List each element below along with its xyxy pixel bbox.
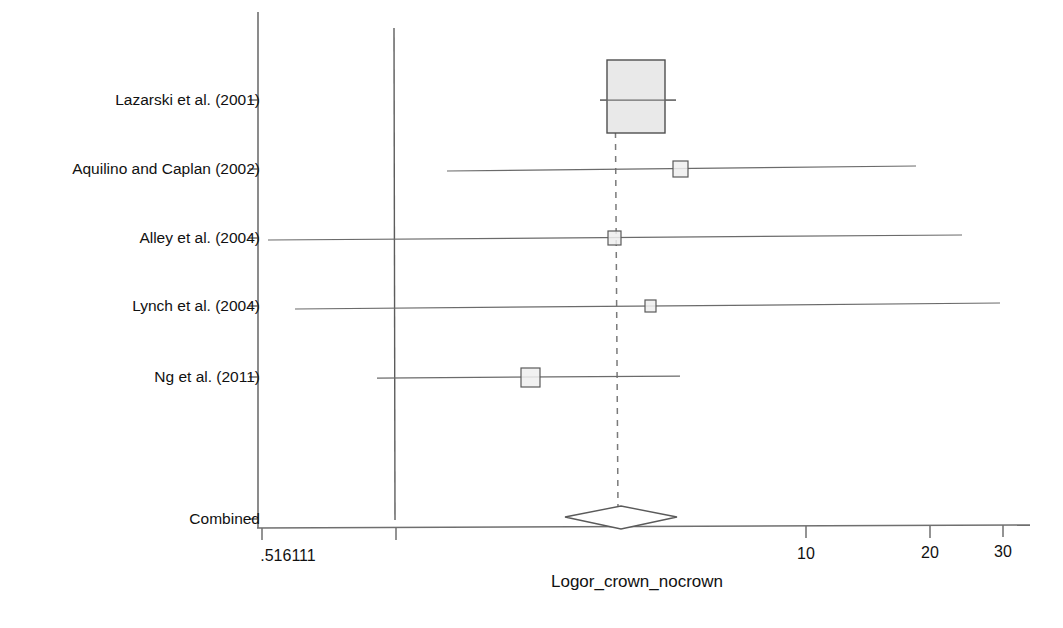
study-row-alley bbox=[268, 231, 962, 245]
xtick-label-10: 10 bbox=[797, 546, 815, 562]
study-row-lazarski bbox=[600, 60, 676, 133]
effect-marker-box bbox=[521, 368, 540, 387]
study-row-ng bbox=[377, 368, 680, 387]
xtick-label-30: 30 bbox=[994, 544, 1012, 560]
combined-label: Combined bbox=[189, 511, 260, 527]
x-axis-line bbox=[257, 525, 1030, 528]
study-row-aquilino bbox=[447, 161, 916, 177]
study-row-lynch bbox=[295, 300, 1000, 312]
effect-marker-box bbox=[645, 300, 656, 312]
forest-plot: Lazarski et al. (2001) Aquilino and Capl… bbox=[0, 0, 1063, 628]
effect-marker-box bbox=[607, 60, 665, 133]
null-reference-line bbox=[394, 28, 395, 520]
study-label-aquilino: Aquilino and Caplan (2002) bbox=[72, 161, 260, 177]
x-axis-title: Logor_crown_nocrown bbox=[551, 573, 723, 590]
study-label-alley: Alley et al. (2004) bbox=[139, 230, 260, 246]
combined-diamond bbox=[565, 506, 677, 529]
xtick-label-low: .516111 bbox=[260, 548, 315, 564]
study-label-lynch: Lynch et al. (2004) bbox=[132, 298, 260, 314]
effect-marker-box bbox=[673, 161, 688, 177]
study-label-ng: Ng et al. (2011) bbox=[154, 369, 260, 385]
study-label-lazarski: Lazarski et al. (2001) bbox=[115, 92, 260, 108]
effect-marker-box bbox=[608, 231, 621, 245]
xtick-label-20: 20 bbox=[921, 545, 939, 561]
